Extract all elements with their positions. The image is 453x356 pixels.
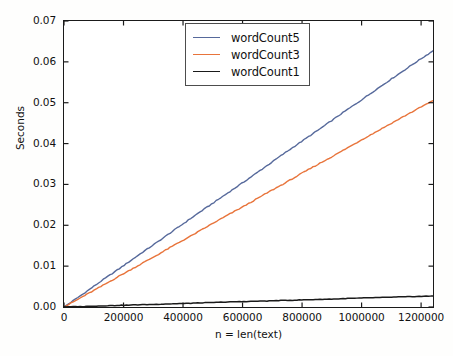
- y-axis-title: Seconds: [14, 38, 26, 128]
- series-line-wordCount1: [64, 296, 433, 307]
- y-tick-label: 0.07: [0, 14, 56, 26]
- legend-item-wordCount5: wordCount5: [193, 29, 300, 46]
- legend-swatch-icon: [193, 37, 220, 38]
- x-axis-title: n = len(text): [63, 328, 434, 340]
- y-tick-label: 0.01: [0, 259, 56, 271]
- legend-item-wordCount1: wordCount1: [193, 63, 300, 80]
- chart-legend: wordCount5wordCount3wordCount1: [185, 23, 310, 86]
- chart-figure: Seconds 0.000.010.020.030.040.050.060.07…: [0, 0, 453, 356]
- y-tick-label: 0.03: [0, 177, 56, 189]
- y-tick-label: 0.06: [0, 55, 56, 67]
- series-line-wordCount3: [64, 101, 433, 307]
- x-tick-label: 1200000: [376, 311, 453, 323]
- y-tick-label: 0.02: [0, 218, 56, 230]
- legend-item-wordCount3: wordCount3: [193, 46, 300, 63]
- legend-swatch-icon: [193, 54, 220, 55]
- legend-swatch-icon: [193, 71, 220, 72]
- legend-item-label: wordCount3: [231, 48, 300, 62]
- y-tick-label: 0.04: [0, 137, 56, 149]
- y-tick-label: 0.05: [0, 96, 56, 108]
- legend-item-label: wordCount5: [231, 31, 300, 45]
- series-line-wordCount5: [64, 51, 433, 307]
- legend-item-label: wordCount1: [231, 65, 300, 79]
